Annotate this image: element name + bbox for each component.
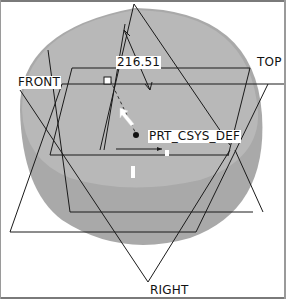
dimension-value[interactable]: 216.51 <box>116 56 161 69</box>
model-graphics[interactable] <box>0 0 286 299</box>
datum-label-front[interactable]: FRONT <box>17 76 61 89</box>
frame-border-left <box>0 0 1 299</box>
csys-z-marker <box>131 166 135 178</box>
frame-border-top <box>0 0 286 2</box>
csys-label[interactable]: PRT_CSYS_DEF <box>148 130 241 143</box>
csys-y-marker <box>165 150 169 156</box>
frame-border-right <box>284 0 286 299</box>
csys-origin-point[interactable] <box>133 132 139 138</box>
model-viewport[interactable]: FRONT 216.51 TOP PRT_CSYS_DEF RIGHT <box>0 0 286 299</box>
datum-label-right[interactable]: RIGHT <box>149 284 190 297</box>
datum-label-top[interactable]: TOP <box>256 56 283 69</box>
selection-handle[interactable] <box>104 77 111 84</box>
